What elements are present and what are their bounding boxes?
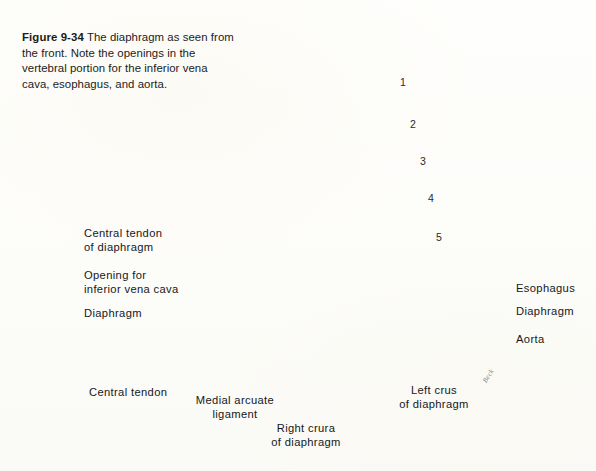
sternum (284, 60, 330, 265)
label-opening-for-inferior-vena-cava: Opening for inferior vena cava (84, 268, 179, 296)
label-diaphragm-right: Diaphragm (516, 304, 574, 318)
label-central-tendon: Central tendon (89, 385, 167, 399)
rib-number-4: 4 (428, 192, 434, 204)
label-central-tendon-of-diaphragm: Central tendon of diaphragm (84, 226, 162, 254)
label-medial-arcuate-ligament: Medial arcuate ligament (181, 393, 289, 421)
label-aorta: Aorta (516, 332, 545, 346)
figure-page: Figure 9-34 The diaphragm as seen from t… (0, 0, 596, 471)
rib-number-1: 1 (400, 76, 406, 88)
label-left-crus-of-diaphragm: Left crus of diaphragm (386, 383, 482, 411)
opening-esophageal-hiatus (323, 329, 343, 344)
figure-number: Figure 9-34 (22, 31, 84, 43)
rib-number-5: 5 (436, 231, 442, 243)
rib-number-3: 3 (420, 155, 426, 167)
label-right-crura-of-diaphragm: Right crura of diaphragm (252, 421, 360, 449)
opening-aortic-hiatus (322, 351, 340, 363)
rib-number-2: 2 (410, 118, 416, 130)
label-esophagus: Esophagus (516, 281, 575, 295)
label-diaphragm-left: Diaphragm (84, 306, 142, 320)
figure-caption: Figure 9-34 The diaphragm as seen from t… (22, 30, 237, 92)
